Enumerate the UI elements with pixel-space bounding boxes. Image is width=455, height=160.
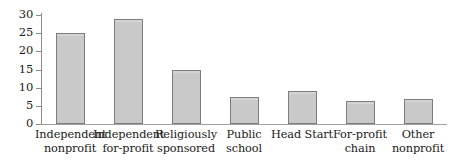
x-axis-label: Othernonprofit [383,128,453,156]
x-axis-line [41,124,447,125]
bar [114,19,143,124]
y-tick-mark [36,124,41,125]
bar-chart: 051015202530 IndependentnonprofitIndepen… [0,0,455,160]
bar [404,99,433,124]
x-axis-label-line: nonprofit [383,142,453,156]
x-axis-label-line: school [209,142,279,156]
bar [346,101,375,124]
bar [172,70,201,125]
bar [288,91,317,124]
bar [230,97,259,124]
bars-layer [0,0,455,124]
x-axis-label-line: Other [383,128,453,142]
bar [56,33,85,124]
